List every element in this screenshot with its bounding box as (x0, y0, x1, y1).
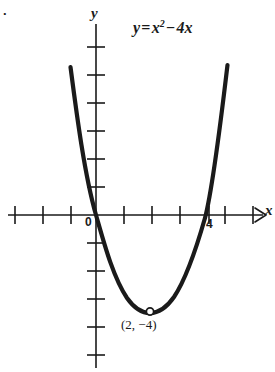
vertex-open-circle-marker (146, 308, 153, 315)
origin-tick-label: 0 (85, 216, 92, 228)
graph-figure: . y x 0 4 y=x2−4x (2, −4) (0, 0, 275, 372)
equation-minus-sign: − (165, 19, 176, 36)
equation-equals: = (140, 19, 151, 36)
x-tick-label-4: 4 (206, 218, 213, 230)
vertex-coordinate-label: (2, −4) (121, 318, 157, 331)
equation-annotation: y=x2−4x (133, 20, 193, 36)
y-axis-label: y (91, 6, 98, 21)
equation-term1-base: x (152, 19, 160, 36)
equation-term2: 4x (176, 19, 192, 36)
x-axis-label: x (265, 203, 273, 218)
problem-number-mark: . (3, 4, 7, 17)
